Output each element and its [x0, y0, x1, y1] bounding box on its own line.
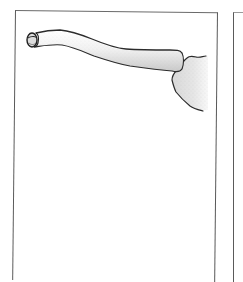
clavicle-shape [28, 30, 184, 72]
